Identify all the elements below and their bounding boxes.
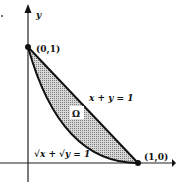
y-axis-arrow-icon [25,4,32,13]
y-axis-label: y [35,10,42,20]
x-axis-arrow-icon [172,159,176,167]
stray-dot [1,15,3,17]
point-0-1-label: (0,1) [36,44,60,55]
curve-label: √x + √y = 1 [34,149,90,159]
region-label: Ω [72,109,80,119]
point-1-0 [135,160,141,166]
line-label: x + y = 1 [88,93,133,103]
point-0-1 [25,44,31,50]
point-1-0-label: (1,0) [144,152,168,163]
diagram-canvas: y (0,1) x + y = 1 Ω √x + √y = 1 (1,0) [0,0,176,184]
